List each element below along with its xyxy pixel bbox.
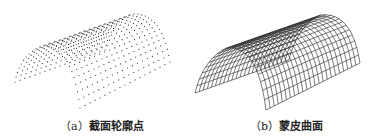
caption-a-title: 截面轮廓点: [89, 120, 144, 133]
figure-canvas: [0, 0, 379, 136]
section-profile-points-plot: [14, 13, 170, 108]
caption-a-label: （a）: [60, 120, 89, 133]
skinned-surface-plot: [195, 15, 360, 110]
caption-b-title: 蒙皮曲面: [279, 120, 323, 133]
caption-b: （b）蒙皮曲面: [250, 117, 323, 133]
caption-a: （a）截面轮廓点: [60, 117, 144, 133]
caption-b-label: （b）: [250, 120, 279, 133]
